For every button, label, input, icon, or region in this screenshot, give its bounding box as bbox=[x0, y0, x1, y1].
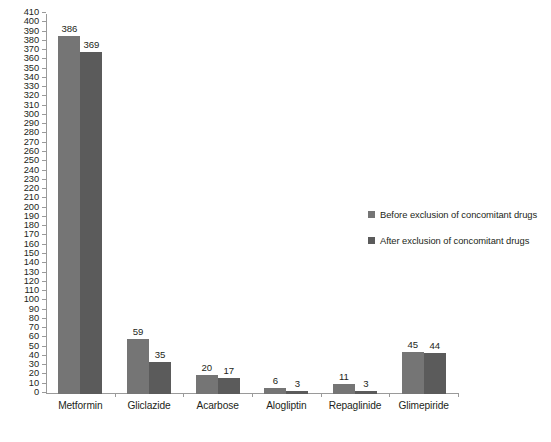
x-axis-category-label: Acarbose bbox=[183, 400, 252, 412]
bar[interactable]: 59 bbox=[127, 339, 149, 394]
y-axis-tick-label: 210 bbox=[24, 192, 39, 202]
bar[interactable]: 6 bbox=[264, 388, 286, 394]
y-axis-tick-label: 350 bbox=[24, 63, 39, 73]
y-axis-tick-label: 110 bbox=[24, 285, 39, 295]
bar[interactable]: 44 bbox=[424, 353, 446, 394]
bar-value-label: 11 bbox=[339, 372, 349, 382]
bar[interactable]: 17 bbox=[218, 378, 240, 394]
plot-area: 38636959352017631134544 bbox=[46, 14, 458, 394]
x-axis-category-label: Repaglinide bbox=[321, 400, 390, 412]
x-axis-category-label: Metformin bbox=[46, 400, 115, 412]
y-axis-tick-label: 220 bbox=[24, 183, 39, 193]
y-axis-tick-label: 20 bbox=[29, 368, 39, 378]
bar-value-label: 3 bbox=[295, 379, 300, 389]
bar-group: 63 bbox=[252, 14, 321, 394]
legend-swatch-icon bbox=[368, 211, 375, 218]
y-axis-tick-label: 260 bbox=[24, 146, 39, 156]
y-axis-tick-label: 340 bbox=[24, 72, 39, 82]
legend-label: Before exclusion of concomitant drugs bbox=[380, 209, 537, 222]
bar-group-bars: 63 bbox=[252, 14, 321, 394]
chart-legend: Before exclusion of concomitant drugsAft… bbox=[368, 209, 544, 260]
bar-group-bars: 113 bbox=[321, 14, 390, 394]
bar-group: 386369 bbox=[46, 14, 115, 394]
x-axis-category-label: Gliclazide bbox=[115, 400, 184, 412]
bar[interactable]: 369 bbox=[80, 52, 102, 394]
bar-value-label: 45 bbox=[407, 340, 417, 350]
y-axis-tick-label: 330 bbox=[24, 81, 39, 91]
y-axis-tick-label: 320 bbox=[24, 90, 39, 100]
y-axis-tick-label: 50 bbox=[29, 341, 39, 351]
bar-value-label: 20 bbox=[201, 363, 211, 373]
bar-group: 113 bbox=[321, 14, 390, 394]
y-axis-tick-label: 240 bbox=[24, 165, 39, 175]
bar-value-label: 59 bbox=[133, 327, 143, 337]
y-axis-tick-label: 270 bbox=[24, 137, 39, 147]
y-axis-tick-label: 80 bbox=[29, 313, 39, 323]
x-axis-tick-mark bbox=[458, 393, 459, 397]
bar[interactable]: 11 bbox=[333, 384, 355, 394]
y-axis-tick-label: 300 bbox=[24, 109, 39, 119]
bar-value-label: 35 bbox=[155, 350, 165, 360]
bar-value-label: 3 bbox=[363, 379, 368, 389]
y-axis-tick-label: 200 bbox=[24, 202, 39, 212]
y-axis-tick-label: 230 bbox=[24, 174, 39, 184]
bar[interactable]: 35 bbox=[149, 362, 171, 394]
legend-label: After exclusion of concomitant drugs bbox=[380, 235, 529, 248]
bar-group: 2017 bbox=[183, 14, 252, 394]
bar-chart: 0102030405060708090100110120130140150160… bbox=[0, 0, 551, 442]
y-axis-tick-label: 30 bbox=[29, 359, 39, 369]
bar[interactable]: 20 bbox=[196, 375, 218, 394]
bar-group-bars: 4544 bbox=[389, 14, 458, 394]
legend-swatch-icon bbox=[368, 237, 375, 244]
x-axis-category-label: Alogliptin bbox=[252, 400, 321, 412]
y-axis-tick-label: 170 bbox=[24, 229, 39, 239]
bar-group-bars: 2017 bbox=[183, 14, 252, 394]
y-axis-tick-label: 360 bbox=[24, 53, 39, 63]
y-axis-tick-label: 150 bbox=[24, 248, 39, 258]
y-axis-tick-label: 390 bbox=[24, 26, 39, 36]
y-axis-tick-label: 400 bbox=[24, 16, 39, 26]
bar[interactable]: 386 bbox=[58, 36, 80, 394]
bar[interactable]: 3 bbox=[355, 391, 377, 394]
bar-value-label: 17 bbox=[223, 366, 233, 376]
y-axis-tick-label: 290 bbox=[24, 118, 39, 128]
y-axis-tick-label: 0 bbox=[34, 387, 39, 397]
bar-group: 5935 bbox=[115, 14, 184, 394]
y-axis-tick-label: 280 bbox=[24, 127, 39, 137]
bar-group: 4544 bbox=[389, 14, 458, 394]
y-axis-tick-label: 100 bbox=[24, 294, 39, 304]
y-axis-tick-label: 380 bbox=[24, 35, 39, 45]
legend-entry[interactable]: Before exclusion of concomitant drugs bbox=[368, 209, 544, 222]
y-axis-tick-mark bbox=[42, 12, 46, 13]
bar[interactable]: 3 bbox=[286, 391, 308, 394]
y-axis-tick-label: 120 bbox=[24, 276, 39, 286]
x-axis-tick-mark bbox=[389, 393, 390, 397]
bar-value-label: 386 bbox=[61, 24, 77, 34]
x-axis-tick-mark bbox=[252, 393, 253, 397]
bar[interactable]: 45 bbox=[402, 352, 424, 394]
bar-group-bars: 5935 bbox=[115, 14, 184, 394]
x-axis-tick-mark bbox=[321, 393, 322, 397]
bar-value-label: 44 bbox=[429, 341, 439, 351]
bar-value-label: 369 bbox=[83, 40, 99, 50]
y-axis-tick-label: 40 bbox=[29, 350, 39, 360]
y-axis-tick-label: 60 bbox=[29, 331, 39, 341]
x-axis-tick-mark bbox=[115, 393, 116, 397]
x-axis-category-label: Glimepiride bbox=[389, 400, 458, 412]
x-axis-tick-mark bbox=[183, 393, 184, 397]
legend-entry[interactable]: After exclusion of concomitant drugs bbox=[368, 235, 544, 248]
y-axis-tick-label: 10 bbox=[29, 378, 39, 388]
y-axis-tick-label: 410 bbox=[24, 7, 39, 17]
y-axis-tick-label: 70 bbox=[29, 322, 39, 332]
bar-group-bars: 386369 bbox=[46, 14, 115, 394]
bar-value-label: 6 bbox=[273, 376, 278, 386]
y-axis-tick-label: 370 bbox=[24, 44, 39, 54]
y-axis-tick-label: 140 bbox=[24, 257, 39, 267]
y-axis-tick-label: 90 bbox=[29, 304, 39, 314]
y-axis-tick-label: 160 bbox=[24, 239, 39, 249]
y-axis-tick-label: 190 bbox=[24, 211, 39, 221]
y-axis-tick-label: 180 bbox=[24, 220, 39, 230]
y-axis-tick-label: 130 bbox=[24, 267, 39, 277]
y-axis-tick-label: 310 bbox=[24, 100, 39, 110]
y-axis-tick-label: 250 bbox=[24, 155, 39, 165]
